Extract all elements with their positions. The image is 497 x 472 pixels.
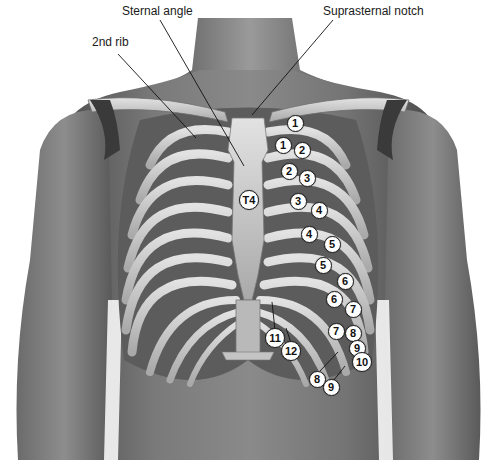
rib-cage-illustration: Sternal angle Suprasternal notch 2nd rib…	[0, 0, 497, 472]
rib-marker-12: 12	[281, 341, 301, 361]
rib-marker-7: 7	[345, 301, 362, 318]
rib-marker-3: 3	[299, 170, 316, 187]
interspace-marker-1: 1	[275, 137, 292, 154]
interspace-marker-7: 7	[328, 323, 345, 340]
rib-marker-10: 10	[352, 352, 372, 372]
rib-marker-2: 2	[294, 142, 311, 159]
anatomy-drawing	[0, 0, 497, 472]
rib-marker-8: 8	[345, 325, 362, 342]
interspace-marker-5: 5	[315, 257, 332, 274]
rib-marker-6: 6	[337, 273, 354, 290]
interspace-marker-3: 3	[290, 193, 307, 210]
vertebra-marker-t4: T4	[239, 190, 259, 210]
interspace-marker-6: 6	[326, 291, 343, 308]
label-sternal-angle: Sternal angle	[122, 4, 193, 18]
interspace-marker-4: 4	[301, 226, 318, 243]
rib-marker-4: 4	[311, 202, 328, 219]
interspace-marker-9: 9	[323, 379, 340, 396]
interspace-marker-2: 2	[281, 163, 298, 180]
rib-marker-5: 5	[324, 236, 341, 253]
label-second-rib: 2nd rib	[92, 35, 129, 49]
rib-marker-1: 1	[287, 115, 304, 132]
label-suprasternal-notch: Suprasternal notch	[323, 4, 424, 18]
